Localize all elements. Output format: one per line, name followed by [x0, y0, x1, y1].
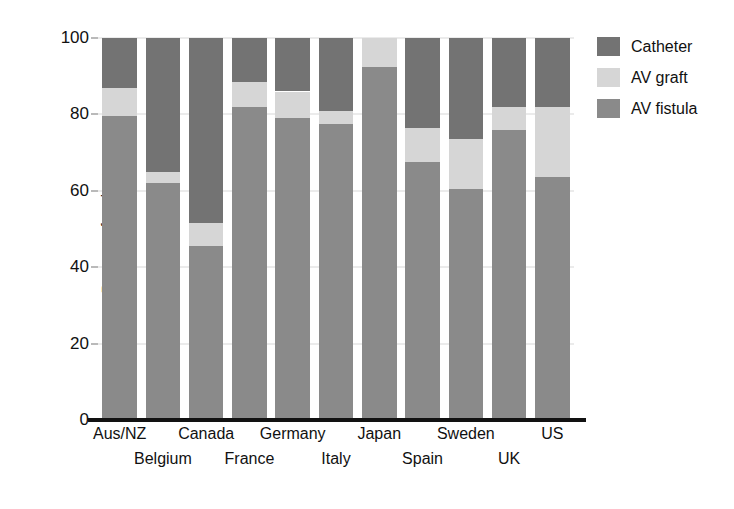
bar-us[interactable]: [535, 38, 570, 420]
chart-figure: Percent of patients 020406080100 Aus/NZB…: [0, 0, 734, 509]
bar-segment-catheter[interactable]: [319, 38, 354, 111]
bar-france[interactable]: [232, 38, 267, 420]
bar-segment-av-fistula[interactable]: [146, 183, 181, 420]
bar-segment-av-graft[interactable]: [319, 111, 354, 124]
bar-sweden[interactable]: [449, 38, 484, 420]
x-axis-label-aus-nz: Aus/NZ: [93, 425, 146, 443]
bar-segment-av-fistula[interactable]: [102, 116, 137, 420]
bar-segment-av-graft[interactable]: [449, 139, 484, 189]
bar-segment-catheter[interactable]: [492, 38, 527, 107]
bar-segment-av-fistula[interactable]: [232, 107, 267, 420]
bar-segment-av-graft[interactable]: [405, 128, 440, 162]
x-axis-label-belgium: Belgium: [134, 450, 192, 468]
x-axis-label-uk: UK: [498, 450, 520, 468]
x-axis-label-spain: Spain: [402, 450, 443, 468]
bar-segment-catheter[interactable]: [405, 38, 440, 128]
legend-item[interactable]: AV graft: [597, 64, 729, 91]
x-axis-tick-labels: Aus/NZBelgiumCanadaFranceGermanyItalyJap…: [98, 424, 574, 494]
legend-label: Catheter: [631, 38, 692, 56]
legend-item[interactable]: AV fistula: [597, 95, 729, 122]
bar-segment-catheter[interactable]: [146, 38, 181, 172]
bar-germany[interactable]: [275, 38, 310, 420]
bar-segment-av-graft[interactable]: [146, 172, 181, 183]
legend-swatch-av-fistula: [597, 99, 620, 118]
bar-belgium[interactable]: [146, 38, 181, 420]
bar-segment-av-fistula[interactable]: [319, 124, 354, 420]
legend-swatch-av-graft: [597, 68, 620, 87]
bar-aus-nz[interactable]: [102, 38, 137, 420]
x-axis-label-us: US: [541, 425, 563, 443]
y-axis-tick-mark: [91, 38, 98, 39]
bar-segment-av-graft[interactable]: [102, 88, 137, 117]
bar-segment-av-graft[interactable]: [535, 107, 570, 178]
bar-segment-av-fistula[interactable]: [535, 177, 570, 420]
x-axis-label-canada: Canada: [178, 425, 234, 443]
y-axis-tick-mark: [91, 267, 98, 268]
bar-japan[interactable]: [362, 38, 397, 420]
x-axis-line: [88, 418, 586, 422]
bar-segment-catheter[interactable]: [232, 38, 267, 82]
y-axis-tick-mark: [91, 343, 98, 344]
x-axis-label-italy: Italy: [321, 450, 350, 468]
y-axis-tick-mark: [91, 114, 98, 115]
x-axis-label-france: France: [225, 450, 275, 468]
legend-label: AV fistula: [631, 100, 697, 118]
bar-segment-catheter[interactable]: [189, 38, 224, 223]
bar-uk[interactable]: [492, 38, 527, 420]
bar-segment-av-graft[interactable]: [492, 107, 527, 130]
x-axis-label-germany: Germany: [260, 425, 326, 443]
bar-segment-catheter[interactable]: [449, 38, 484, 139]
bar-segment-av-fistula[interactable]: [449, 189, 484, 420]
bar-segment-av-graft[interactable]: [232, 82, 267, 107]
bar-segment-av-fistula[interactable]: [492, 130, 527, 420]
x-axis-label-sweden: Sweden: [437, 425, 495, 443]
bar-segment-av-graft[interactable]: [275, 92, 310, 119]
plot-area: Percent of patients 020406080100: [98, 38, 574, 420]
y-axis-tick-mark: [91, 190, 98, 191]
bar-italy[interactable]: [319, 38, 354, 420]
bar-segment-av-graft[interactable]: [189, 223, 224, 246]
legend-label: AV graft: [631, 69, 688, 87]
bar-segment-av-fistula[interactable]: [275, 118, 310, 420]
bar-segment-catheter[interactable]: [275, 38, 310, 91]
legend-swatch-catheter: [597, 37, 620, 56]
bar-segment-catheter[interactable]: [102, 38, 137, 88]
bar-spain[interactable]: [405, 38, 440, 420]
bar-segment-catheter[interactable]: [535, 38, 570, 107]
bar-group: [98, 38, 574, 420]
bar-canada[interactable]: [189, 38, 224, 420]
chart-legend: CatheterAV graftAV fistula: [597, 33, 729, 126]
bar-segment-av-graft[interactable]: [362, 38, 397, 67]
legend-item[interactable]: Catheter: [597, 33, 729, 60]
bar-segment-av-fistula[interactable]: [189, 246, 224, 420]
bar-segment-av-fistula[interactable]: [405, 162, 440, 420]
bar-segment-av-fistula[interactable]: [362, 67, 397, 420]
x-axis-label-japan: Japan: [357, 425, 401, 443]
